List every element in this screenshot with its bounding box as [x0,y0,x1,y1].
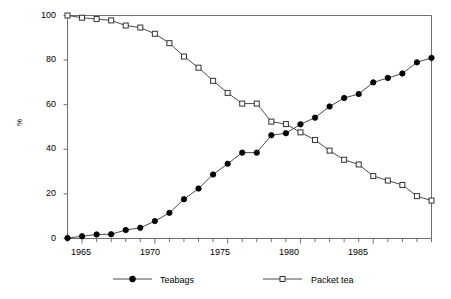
x-tick-label-1985: 1985 [338,247,378,257]
y-tick-label-40: 40 [30,143,56,153]
x-tick-label-1980: 1980 [269,247,309,257]
axis-frame [68,16,432,239]
data-point-marker [356,162,361,167]
data-point-marker [167,210,172,215]
data-point-marker [400,71,405,76]
data-point-marker [298,122,303,127]
data-point-marker [385,178,390,183]
data-point-marker [225,90,230,95]
data-point-marker [181,54,186,59]
data-point-marker [371,174,376,179]
y-tick-label-20: 20 [30,188,56,198]
data-point-marker [342,157,347,162]
data-point-marker [196,186,201,191]
x-tick-label-1970: 1970 [130,247,170,257]
legend-label-packet-tea: Packet tea [311,275,354,285]
series-teabags [65,55,434,241]
legend-label-teabags: Teabags [160,275,194,285]
y-axis-ticks [64,16,68,239]
legend-marker-packet-tea [280,277,285,282]
legend [113,276,302,282]
series-packet-tea [65,13,434,203]
data-point-marker [94,17,99,22]
data-point-marker [152,218,157,223]
data-point-marker [385,75,390,80]
data-point-marker [167,41,172,46]
data-point-marker [327,148,332,153]
y-tick-label-60: 60 [30,99,56,109]
x-axis-ticks [68,239,432,244]
data-point-marker [414,194,419,199]
data-point-marker [254,150,259,155]
data-point-marker [94,232,99,237]
data-point-marker [123,23,128,28]
data-point-marker [327,104,332,109]
data-point-marker [80,15,85,20]
data-point-marker [429,198,434,203]
data-point-marker [283,122,288,127]
data-point-marker [298,130,303,135]
data-point-marker [211,78,216,83]
data-point-marker [414,60,419,65]
chart-figure: % 100 80 60 40 20 0 1965 1970 1975 1980 … [0,0,451,299]
data-point-marker [269,133,274,138]
data-point-marker [240,150,245,155]
data-point-marker [181,197,186,202]
data-point-marker [65,235,70,240]
y-tick-label-0: 0 [30,233,56,243]
data-point-marker [152,31,157,36]
y-tick-label-80: 80 [30,54,56,64]
y-tick-label-100: 100 [30,10,56,20]
data-point-marker [79,234,84,239]
data-point-marker [65,13,70,18]
data-point-marker [429,55,434,60]
legend-marker-teabags [130,276,136,282]
data-point-marker [356,91,361,96]
x-tick-label-1975: 1975 [200,247,240,257]
data-point-marker [109,18,114,23]
data-point-marker [341,95,346,100]
data-point-marker [108,232,113,237]
data-point-marker [123,227,128,232]
data-point-marker [283,131,288,136]
data-point-marker [254,101,259,106]
x-tick-label-1965: 1965 [61,247,101,257]
data-point-marker [269,119,274,124]
data-point-marker [313,137,318,142]
data-point-marker [400,182,405,187]
data-point-marker [371,80,376,85]
data-point-marker [196,65,201,70]
data-point-marker [138,25,143,30]
data-point-marker [138,225,143,230]
data-point-marker [240,101,245,106]
data-point-marker [225,161,230,166]
data-point-marker [312,115,317,120]
y-axis-label: % [15,119,24,126]
data-point-marker [210,172,215,177]
